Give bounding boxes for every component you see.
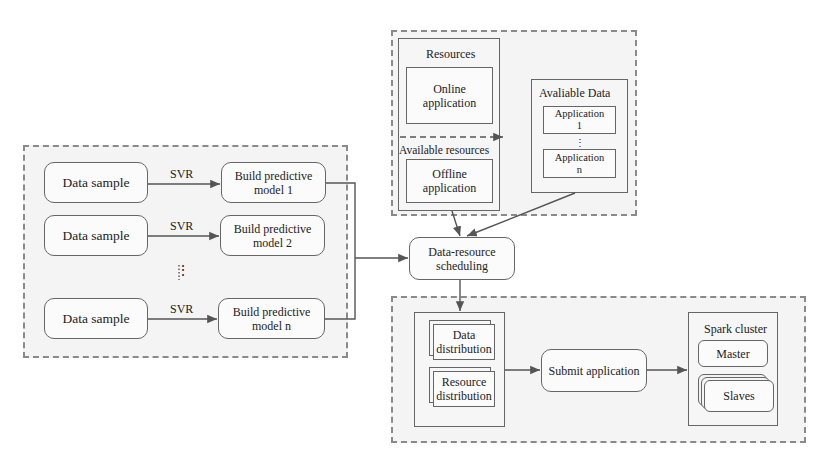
connector-lines: [0, 0, 830, 465]
